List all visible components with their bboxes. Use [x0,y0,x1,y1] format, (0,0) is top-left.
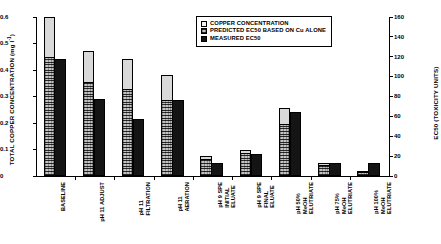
bar-predicted-ec50 [318,165,330,176]
y-tick-label-right: 140 [394,34,404,40]
bar-measured-ec50 [172,100,184,176]
y-tick-right [389,156,393,157]
x-category-label: pH 11 ADJUST [99,182,106,222]
x-tick [193,176,194,180]
y-tick-label-left: 0.2 [0,120,10,126]
bar-measured-ec50 [211,163,223,176]
x-category-label: pH 100%MeOHELUTRIATE [373,182,393,214]
bar-measured-ec50 [290,112,302,176]
y-tick-label-right: 160 [394,14,404,20]
x-tick [154,176,155,180]
y-tick-right [389,176,393,177]
y-axis-title-right: EC50 (TOXICITY UNITS) [433,33,439,173]
legend-item: COPPER CONCENTRATION [201,21,326,27]
chart-container: TOTAL COPPER CONCENTRATION (mg l-1) EC50… [0,0,441,244]
bar-measured-ec50 [133,119,145,176]
legend-swatch-predicted [201,28,207,34]
y-tick-label-left: 0.3 [0,93,10,99]
y-tick-right [389,76,393,77]
x-category-label: pH 9 SPEINITIALELUATE [217,182,237,208]
y-tick-label-right: 80 [394,93,401,99]
x-tick [114,176,115,180]
bar-group [154,17,193,176]
bar-group [350,17,389,176]
y-tick-label-right: 120 [394,54,404,60]
bar-measured-ec50 [54,59,66,176]
bar-predicted-ec50 [161,100,173,176]
bar-predicted-ec50 [357,172,369,177]
chart-legend: COPPER CONCENTRATIONPREDICTED EC50 BASED… [196,16,332,47]
x-tick [271,176,272,180]
x-category-label: BASELINE [60,182,67,211]
y-tick-right [389,116,393,117]
legend-label: COPPER CONCENTRATION [210,21,289,27]
y-tick-label-left: 0 [0,173,5,179]
x-tick [311,176,312,180]
x-tick [75,176,76,180]
y-tick-right [389,17,393,18]
x-category-label: pH 50%MeOHELUTRIATE [295,182,315,214]
x-tick [350,176,351,180]
y-axis-right-line [389,17,390,177]
x-category-label: pH 11AERATION [177,182,190,212]
y-tick-label-left: 0.4 [0,67,10,73]
x-tick [232,176,233,180]
y-tick-label-right: 100 [394,73,404,79]
bar-predicted-ec50 [279,124,291,176]
bar-predicted-ec50 [200,159,212,176]
bar-predicted-ec50 [44,57,56,176]
y-tick-label-left: 0.5 [0,40,10,46]
y-tick-label-right: 40 [394,133,401,139]
y-tick-label-left: 0.1 [0,146,10,152]
legend-swatch-copper [201,21,207,27]
y-tick-label-left: 0.6 [0,14,10,20]
y-tick-label-right: 0 [394,173,397,179]
x-axis-line [36,176,390,177]
y-tick-right [389,36,393,37]
y-tick-right [389,96,393,97]
bar-measured-ec50 [368,163,380,176]
legend-item: PREDICTED EC50 BASED ON Cu ALONE [201,28,326,34]
bar-group [36,17,75,176]
legend-item: MEASURED EC50 [201,36,326,42]
y-tick-label-right: 20 [394,153,401,159]
legend-swatch-measured [201,36,207,42]
x-category-label: pH 9 SPEFINALELUATE [256,182,276,208]
bar-group [114,17,153,176]
y-tick-label-right: 60 [394,113,401,119]
bar-predicted-ec50 [240,153,252,176]
x-category-label: pH 11FILTRATION [138,182,151,215]
bar-group [75,17,114,176]
bar-measured-ec50 [251,154,263,176]
y-tick-right [389,136,393,137]
legend-label: MEASURED EC50 [210,36,261,42]
bar-predicted-ec50 [83,82,95,176]
bar-predicted-ec50 [122,89,134,176]
bar-measured-ec50 [94,99,106,176]
legend-label: PREDICTED EC50 BASED ON Cu ALONE [210,28,326,34]
bar-measured-ec50 [329,163,341,176]
y-tick-right [389,56,393,57]
x-category-label: pH 75%MeOHELUTRIATE [334,182,354,214]
